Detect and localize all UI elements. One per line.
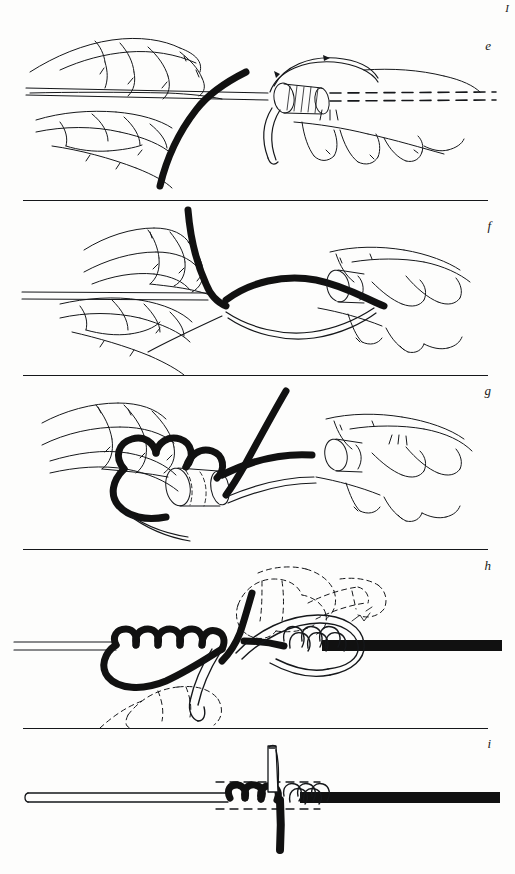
rope-left-h	[14, 642, 116, 650]
panel-g: g	[0, 375, 515, 549]
black-bight-loop-f	[226, 278, 384, 306]
left-hand-lower-fingers	[36, 111, 172, 188]
dashed-ghost-lower-h	[100, 687, 221, 729]
dashed-ghost-upper-h	[236, 567, 386, 639]
left-hand-lower-f	[60, 298, 192, 375]
black-whipping-turns-h	[114, 629, 224, 649]
dashed-hidden-rope-e	[330, 92, 496, 101]
panel-e: e	[0, 0, 515, 200]
black-working-end-h	[222, 593, 252, 661]
black-lower-loop-h	[104, 645, 222, 687]
rope-standing-part-e	[26, 88, 268, 100]
whipping-detail-e	[264, 55, 378, 164]
right-hand-g	[316, 414, 472, 521]
illustration-g	[0, 375, 515, 549]
illustration-e	[0, 0, 515, 200]
illustration-f	[0, 200, 515, 375]
black-working-end-e	[160, 72, 246, 186]
rope-right-black-h	[322, 640, 502, 651]
rope-left-i	[25, 793, 228, 802]
black-bight-g	[222, 455, 312, 475]
thin-trailing-line-f	[148, 316, 222, 352]
black-tail-end-i	[280, 800, 281, 850]
illustration-i	[0, 728, 515, 874]
thin-return-line-f	[226, 308, 376, 339]
book-page: I e	[0, 0, 515, 874]
thin-lines-g	[120, 477, 316, 541]
illustration-h	[0, 549, 515, 728]
panel-h: h	[0, 549, 515, 728]
left-hand-f	[84, 228, 224, 302]
scribble-mark-h	[352, 607, 372, 621]
black-working-end-g	[226, 391, 286, 495]
black-turn-under-g	[113, 469, 166, 519]
rope-standing-part-f	[22, 292, 208, 300]
panel-f: f	[0, 200, 515, 375]
knife-blade-i	[268, 746, 278, 793]
right-hand-e	[294, 69, 480, 164]
panel-i: i	[0, 728, 515, 874]
right-hand-f	[318, 247, 470, 352]
